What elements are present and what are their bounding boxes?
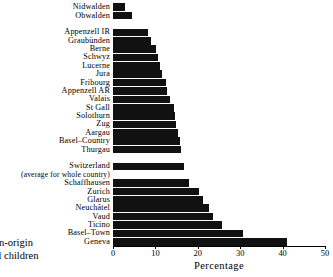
bar — [113, 3, 125, 11]
bar-row: Berne — [113, 45, 325, 53]
x-axis-line — [113, 246, 325, 247]
bar — [113, 121, 176, 129]
x-axis-tick-label: 30 — [236, 249, 244, 259]
bar-row: Nidwalden — [113, 3, 325, 11]
bar-row: St Gall — [113, 104, 325, 112]
bar — [113, 87, 167, 95]
bar-row: Thurgau — [113, 146, 325, 154]
bar-row-label: Geneva — [84, 238, 110, 246]
bar — [113, 62, 160, 70]
bar-row: Switzerland — [113, 163, 325, 171]
x-axis-tick-label: 50 — [321, 249, 329, 259]
bar — [113, 137, 180, 145]
bar — [113, 230, 243, 238]
bar-row: Zug — [113, 121, 325, 129]
bar-row: Appenzell IR — [113, 29, 325, 37]
bar — [113, 221, 222, 229]
x-axis-title: Percentage — [113, 260, 325, 271]
y-axis-caption-line2: school children — [0, 249, 60, 262]
y-axis-caption: foreign-origin school children — [0, 236, 60, 262]
bar-row: Geneva — [113, 238, 325, 246]
bar-row: Obwalden — [113, 12, 325, 20]
bar — [113, 204, 209, 212]
x-axis-tick-label: 0 — [111, 249, 115, 259]
bar — [113, 37, 151, 45]
bar-row: Zurich — [113, 188, 325, 196]
bar-row: Jura — [113, 70, 325, 78]
x-axis-tick-label: 10 — [151, 249, 159, 259]
bar-row: Valais — [113, 96, 325, 104]
bar-row — [113, 20, 325, 28]
x-axis: 01020304050 Percentage — [113, 246, 325, 277]
bar — [113, 112, 175, 120]
bar — [113, 238, 287, 246]
bar-row: Basel–Country — [113, 137, 325, 145]
bar — [113, 70, 162, 78]
bar-row: Solothurn — [113, 112, 325, 120]
bar — [113, 96, 170, 104]
bar-row-label: Obwalden — [75, 11, 110, 19]
bar-row: Neuchâtel — [113, 204, 325, 212]
bar — [113, 54, 158, 62]
bar — [113, 45, 156, 53]
bar — [113, 79, 166, 87]
bar — [113, 146, 181, 154]
bar — [113, 104, 174, 112]
bar-row: Glarus — [113, 196, 325, 204]
bar — [113, 29, 148, 37]
bar-row: Graubünden — [113, 37, 325, 45]
bar — [113, 188, 199, 196]
plot-area: NidwaldenObwaldenAppenzell IRGraubündenB… — [113, 3, 325, 246]
bar-chart: foreign-origin school children Nidwalden… — [0, 0, 333, 277]
bar — [113, 163, 184, 171]
y-axis-caption-line1: foreign-origin — [0, 236, 60, 249]
bar-row: Fribourg — [113, 79, 325, 87]
bar — [113, 129, 178, 137]
bar — [113, 12, 132, 20]
bar-row: Basel–Town — [113, 230, 325, 238]
bar-row — [113, 154, 325, 162]
bar-row: Schaffhausen — [113, 179, 325, 187]
bar — [113, 196, 203, 204]
bar-row-label: Thurgau — [81, 146, 110, 154]
bar-row: Lucerne — [113, 62, 325, 70]
bar-row: (average for whole country) — [113, 171, 325, 179]
bar-row: Aargau — [113, 129, 325, 137]
bar — [113, 179, 189, 187]
bar-row: Vaud — [113, 213, 325, 221]
bar-row: Ticino — [113, 221, 325, 229]
bar-row: Schwyz — [113, 54, 325, 62]
bar-row: Appenzell AR — [113, 87, 325, 95]
x-axis-tick-label: 40 — [278, 249, 286, 259]
x-axis-tick-label: 20 — [194, 249, 202, 259]
bar — [113, 213, 213, 221]
